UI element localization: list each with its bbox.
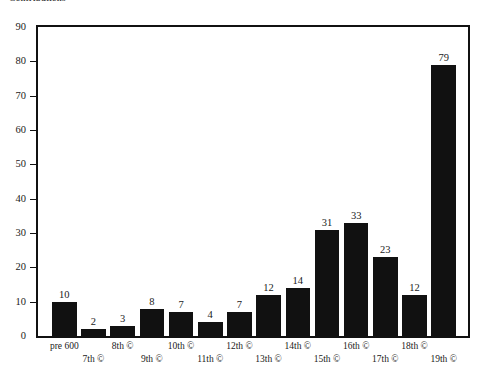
bar (431, 65, 456, 336)
x-axis-tick-label: 12th © (213, 341, 265, 352)
bar-group: 3 (110, 27, 135, 336)
y-axis-tick (30, 199, 37, 200)
bar (198, 322, 223, 336)
bar-value-label: 79 (438, 52, 449, 63)
x-axis-tick-label: 18th © (389, 341, 441, 352)
bar-value-label: 23 (380, 244, 391, 255)
bar-group: 31 (315, 27, 340, 336)
y-axis-tick-label: 10 (4, 297, 26, 307)
bar-group: 79 (431, 27, 456, 336)
bar-group: 8 (140, 27, 165, 336)
bar-value-label: 3 (120, 313, 125, 324)
bar-series: 1023874712143133231279 (52, 27, 456, 336)
y-axis-tick (30, 164, 37, 165)
y-axis-tick (30, 233, 37, 234)
x-axis-tick-label: 11th © (184, 354, 236, 365)
bar-value-label: 10 (59, 289, 70, 300)
bar-group: 12 (256, 27, 281, 336)
bar-value-label: 31 (322, 217, 333, 228)
bar-value-label: 4 (208, 309, 213, 320)
plot-area: 1023874712143133231279 (38, 27, 468, 336)
x-axis-tick-label: 8th © (97, 341, 149, 352)
x-axis-tick-label: 13th © (243, 354, 295, 365)
y-axis-tick-label: 80 (4, 56, 26, 66)
bar-group: 14 (286, 27, 311, 336)
bar (402, 295, 427, 336)
y-axis-tick (30, 267, 37, 268)
bar-group: 23 (373, 27, 398, 336)
bar-value-label: 14 (293, 275, 304, 286)
y-axis-tick-label: 60 (4, 125, 26, 135)
bar-value-label: 33 (351, 210, 362, 221)
y-axis-tick-label: 40 (4, 194, 26, 204)
bar-value-label: 8 (149, 296, 154, 307)
bar (373, 257, 398, 336)
x-axis-tick-label: 16th © (330, 341, 382, 352)
y-axis-tick-label: 50 (4, 159, 26, 169)
x-axis-labels: pre 6007th ©8th ©9th ©10th ©11th ©12th ©… (52, 341, 456, 377)
bar-group: 7 (227, 27, 252, 336)
bar-value-label: 2 (91, 316, 96, 327)
bar (110, 326, 135, 336)
bar (315, 230, 340, 336)
bar (286, 288, 311, 336)
bar-group: 4 (198, 27, 223, 336)
bar (52, 302, 77, 336)
y-axis-tick-label: 90 (4, 22, 26, 32)
x-axis-tick-label: 7th © (67, 354, 119, 365)
bar-value-label: 12 (409, 282, 420, 293)
x-axis-tick-label: 10th © (155, 341, 207, 352)
y-axis-tick-label: 20 (4, 262, 26, 272)
bar (344, 223, 369, 336)
bar (256, 295, 281, 336)
y-axis-tick-label: 70 (4, 91, 26, 101)
bar-group: 12 (402, 27, 427, 336)
x-axis-tick-label: 9th © (126, 354, 178, 365)
bar (227, 312, 252, 336)
bar-group: 2 (81, 27, 106, 336)
x-axis-tick-label: 15th © (301, 354, 353, 365)
y-axis-tick-label: 30 (4, 228, 26, 238)
chart-figure: Contributions 0102030405060708090 102387… (0, 0, 482, 380)
x-axis-tick-label: 14th © (272, 341, 324, 352)
y-axis-tick (30, 61, 37, 62)
y-axis-tick-label: 0 (4, 331, 26, 341)
bar (169, 312, 194, 336)
bar-value-label: 7 (178, 299, 183, 310)
bar (81, 329, 106, 336)
bar-group: 33 (344, 27, 369, 336)
y-axis-tick (30, 302, 37, 303)
y-axis-tick (30, 130, 37, 131)
bar-value-label: 7 (237, 299, 242, 310)
bar-group: 7 (169, 27, 194, 336)
x-axis-tick-label: 17th © (359, 354, 411, 365)
bar (140, 309, 165, 336)
x-axis-tick-label: pre 600 (38, 341, 90, 352)
x-axis-tick-label: 19th © (418, 354, 470, 365)
bar-group: 10 (52, 27, 77, 336)
bar-value-label: 12 (263, 282, 274, 293)
y-axis-tick (30, 96, 37, 97)
